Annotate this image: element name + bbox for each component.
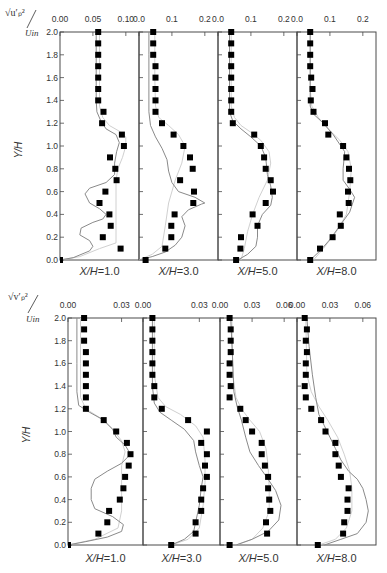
experimental-data-marker [151,394,157,400]
y-tick-label: 1.2 [46,118,58,128]
experimental-data-marker [143,257,149,263]
y-tick-label: 0.6 [54,472,66,482]
simulation-line-dark [230,32,273,260]
experimental-data-marker [228,326,234,332]
experimental-data-marker [83,406,89,412]
x-tick-label: 0.1 [245,14,257,24]
experimental-data-marker [185,417,191,423]
experimental-data-marker [345,497,351,503]
experimental-data-marker [151,383,157,389]
experimental-data-marker [106,211,112,217]
experimental-data-marker [340,531,346,537]
experimental-data-marker [325,132,331,138]
experimental-data-marker [95,75,101,81]
experimental-data-marker [263,200,269,206]
experimental-data-marker [95,40,101,46]
x-tick-label: 0.03 [191,300,208,310]
experimental-data-marker [228,109,234,115]
experimental-data-marker [303,394,309,400]
x-tick-label: 0.2 [357,14,369,24]
experimental-data-marker [230,120,236,126]
experimental-data-marker [307,52,313,58]
experimental-data-marker [266,497,272,503]
experimental-data-marker [128,451,134,457]
experimental-data-marker [343,154,349,160]
experimental-data-marker [122,474,128,480]
experimental-data-marker [153,63,159,69]
experimental-data-marker [264,531,270,537]
panel-plot-area [228,29,276,263]
experimental-data-marker [99,120,105,126]
experimental-data-marker [168,542,174,548]
experimental-data-marker [120,485,126,491]
quantity-label-denominator: Uin [26,314,40,324]
y-tick-label: 2.0 [46,27,58,37]
panel-x-h-3-0: 0.000.03X/H=3.0 [135,300,220,564]
experimental-data-marker [83,349,89,355]
experimental-data-marker [95,63,101,69]
panel-label: X/H=5.0 [236,265,277,277]
experimental-data-marker [83,383,89,389]
experimental-data-marker [243,417,249,423]
experimental-data-marker [106,508,112,514]
panel-frame [139,32,218,260]
experimental-data-marker [318,417,324,423]
experimental-data-marker [121,143,127,149]
panel-plot-area [65,315,134,548]
quantity-label-denominator: Uin [25,28,39,38]
experimental-data-marker [345,508,351,514]
experimental-data-marker [323,429,329,435]
experimental-data-marker [228,383,234,389]
x-tick-label: 0.1 [324,14,336,24]
experimental-data-marker [311,109,317,115]
simulation-line-light [139,32,185,260]
panel-label: X/H=3.0 [160,552,201,564]
experimental-data-marker [267,508,273,514]
x-tick-label: 0.0 [212,14,224,24]
experimental-data-marker [153,97,159,103]
simulation-line-dark [307,318,368,545]
x-tick-label: 0.00 [289,300,306,310]
simulation-line-dark [231,318,281,545]
panel-x-h-1-0: 0.000.050.10X/H=1.0 [52,14,139,277]
x-tick-label: 0.0 [133,14,145,24]
experimental-data-marker [263,166,269,172]
experimental-data-marker [337,211,343,217]
x-tick-label: 0.00 [60,300,77,310]
experimental-data-marker [227,372,233,378]
experimental-data-marker [238,234,244,240]
experimental-data-marker [250,211,256,217]
experimental-data-marker [237,246,243,252]
experimental-data-marker [107,154,113,160]
experimental-data-marker [150,29,156,35]
experimental-data-marker [97,200,103,206]
panels: 0.000.050.10X/H=1.00.00.10.2X/H=3.00.00.… [52,14,376,277]
y-tick-label: 0.4 [54,495,66,505]
experimental-data-marker [303,372,309,378]
experimental-data-marker [303,338,309,344]
experimental-data-marker [198,508,204,514]
experimental-data-marker [180,143,186,149]
experimental-data-marker [303,360,309,366]
x-tick-label: 0.05 [85,14,102,24]
y-tick-label: 1.0 [46,141,58,151]
panel-x-h-3-0: 0.00.10.2X/H=3.0 [133,14,218,277]
simulation-line-dark [310,32,354,260]
experimental-data-marker [262,463,268,469]
experimental-data-marker [100,234,106,240]
experimental-data-marker [159,120,165,126]
experimental-data-marker [83,372,89,378]
fraction-slash [27,10,36,28]
experimental-data-marker [187,154,193,160]
experimental-data-marker [304,326,310,332]
experimental-data-marker [265,485,271,491]
experimental-data-marker [322,120,328,126]
experimental-data-marker [310,86,316,92]
experimental-data-marker [261,154,267,160]
y-tick-label: 1.8 [46,50,58,60]
experimental-data-marker [302,383,308,389]
chart-u-fluctuation: √u′ₚ² Uin Y/H 0.00.20.40.60.81.01.21.41.… [5,7,376,277]
experimental-data-marker [124,440,130,446]
experimental-data-marker [259,440,265,446]
simulation-line-dark [152,318,203,545]
